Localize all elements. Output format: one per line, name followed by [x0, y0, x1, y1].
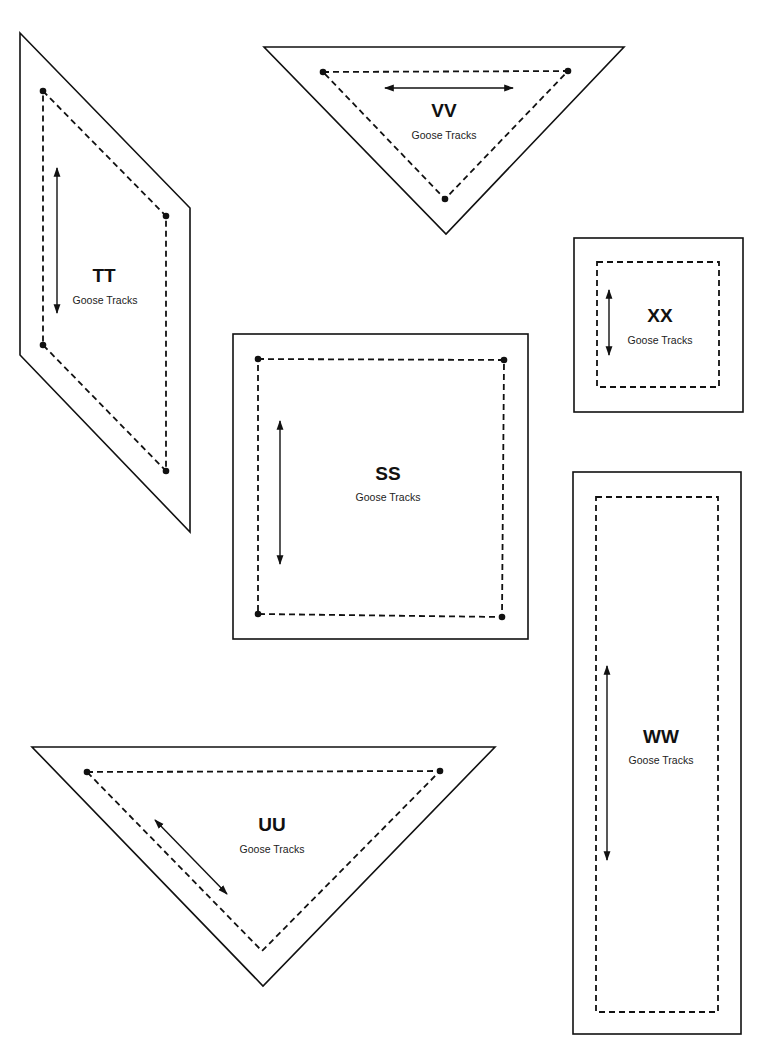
uu-subtitle: Goose Tracks: [240, 843, 305, 855]
ww-subtitle: Goose Tracks: [629, 754, 694, 766]
tt-label: TT: [92, 265, 116, 286]
ss-seam-line: [258, 359, 504, 617]
uu-grain-arrow-icon: [155, 820, 227, 894]
piece-vv: VV Goose Tracks: [264, 47, 624, 234]
ss-subtitle: Goose Tracks: [356, 491, 421, 503]
template-sheet: TT Goose Tracks VV Goose Tracks XX Goose…: [0, 0, 769, 1057]
uu-seam-line: [87, 771, 440, 951]
piece-ss: SS Goose Tracks: [233, 334, 528, 639]
uu-label: UU: [258, 814, 285, 835]
ww-cut-line: [573, 472, 741, 1034]
vv-subtitle: Goose Tracks: [412, 129, 477, 141]
ss-corner-dots: [255, 356, 508, 621]
ww-label: WW: [643, 726, 679, 747]
piece-uu: UU Goose Tracks: [32, 747, 495, 986]
xx-subtitle: Goose Tracks: [628, 334, 693, 346]
piece-tt: TT Goose Tracks: [20, 33, 190, 532]
ss-label: SS: [375, 463, 400, 484]
piece-ww: WW Goose Tracks: [573, 472, 741, 1034]
ss-cut-line: [233, 334, 528, 639]
xx-label: XX: [647, 305, 673, 326]
vv-label: VV: [431, 100, 457, 121]
piece-xx: XX Goose Tracks: [574, 238, 743, 412]
tt-subtitle: Goose Tracks: [73, 294, 138, 306]
